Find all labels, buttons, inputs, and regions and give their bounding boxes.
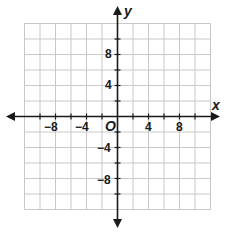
y-axis-down-arrow-icon [113,219,122,228]
x-tick-label: −4 [75,120,89,134]
x-tick-label: −8 [44,120,58,134]
x-axis-right-arrow-icon [211,112,220,121]
x-axis-left-arrow-icon [6,112,15,121]
y-axis-up-arrow-icon [113,6,122,15]
y-tick-label: 4 [105,78,112,92]
y-axis-label: y [123,3,133,19]
x-tick-label: 8 [176,120,183,134]
origin-label: O [105,118,116,134]
x-axis-label: x [211,97,221,113]
x-tick-label: 4 [145,120,152,134]
coordinate-plane: y x O −8 −4 4 8 8 4 −4 −8 [0,0,226,232]
y-tick-label: 8 [105,47,112,61]
y-tick-label: −4 [97,141,111,155]
y-tick-label: −8 [97,173,111,187]
